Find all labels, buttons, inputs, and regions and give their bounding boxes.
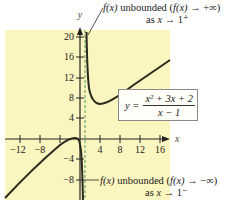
y-axis-label: y [77, 9, 83, 20]
svg-text:12: 12 [64, 72, 74, 83]
svg-text:−8: −8 [35, 144, 46, 155]
svg-text:−8: −8 [63, 174, 74, 185]
equation-lhs: y = [125, 100, 139, 111]
svg-text:8: 8 [69, 92, 74, 103]
annotation-top: f(x) unbounded (f(x) → +∞) [103, 2, 220, 13]
svg-text:12: 12 [135, 144, 145, 155]
svg-text:20: 20 [64, 31, 74, 42]
annotation-bottom-line2: as x → 1⁻ [145, 187, 188, 198]
x-axis-label: x [174, 133, 180, 144]
svg-text:4: 4 [69, 112, 74, 123]
svg-text:16: 16 [155, 144, 165, 155]
svg-text:8: 8 [118, 144, 123, 155]
annotation-top-fx: f(x) [103, 2, 118, 13]
svg-text:16: 16 [64, 51, 74, 62]
svg-text:4: 4 [98, 144, 103, 155]
annotation-top-line2: as x → 1⁺ [146, 14, 189, 25]
equation-denominator: x − 1 [158, 106, 180, 118]
equation-box: y = x² + 3x + 2 x − 1 [118, 89, 198, 121]
equation-numerator: x² + 3x + 2 [143, 93, 195, 106]
equation-fraction: x² + 3x + 2 x − 1 [143, 93, 195, 118]
annotation-bottom: f(x) unbounded (f(x) → −∞) [100, 175, 217, 186]
svg-text:−12: −12 [10, 144, 26, 155]
svg-text:−4: −4 [63, 153, 74, 164]
